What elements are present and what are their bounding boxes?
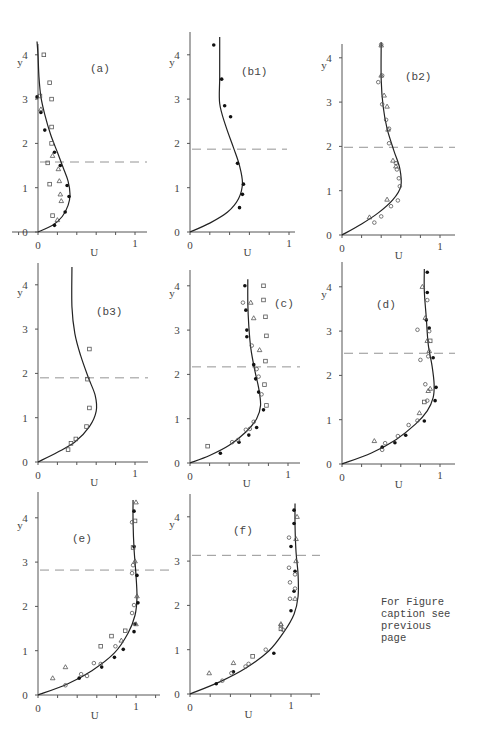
x-tick-label: 0 bbox=[35, 239, 41, 251]
filled-circle-marker bbox=[236, 162, 240, 166]
x-axis-label: U bbox=[91, 709, 99, 721]
filled-circle-marker bbox=[292, 522, 296, 526]
open-triangle-marker bbox=[134, 500, 139, 504]
open-circle-marker bbox=[264, 648, 268, 652]
filled-circle-marker bbox=[135, 574, 139, 578]
caption-line-3: previous bbox=[381, 620, 471, 632]
x-tick-label: 0 bbox=[187, 701, 193, 713]
open-circle-marker bbox=[407, 423, 411, 427]
y-axis-label: y bbox=[169, 518, 175, 530]
open-circle-marker bbox=[426, 355, 430, 359]
panel-c: 0123401Uy(c) bbox=[169, 270, 300, 489]
filled-circle-marker bbox=[433, 399, 437, 403]
filled-circle-marker bbox=[132, 509, 136, 513]
x-tick-label: 0 bbox=[35, 702, 41, 714]
model-curve bbox=[190, 37, 242, 232]
y-tick-label: 2 bbox=[174, 368, 180, 380]
open-triangle-marker bbox=[231, 661, 236, 665]
x-tick-label: 1 bbox=[132, 237, 138, 249]
open-circle-marker bbox=[288, 597, 292, 601]
x-tick-label: 0 bbox=[339, 242, 345, 254]
open-triangle-marker bbox=[257, 348, 262, 352]
open-square-marker bbox=[251, 655, 255, 659]
open-circle-marker bbox=[419, 358, 423, 362]
open-circle-marker bbox=[373, 221, 377, 225]
filled-circle-marker bbox=[431, 356, 435, 360]
open-circle-marker bbox=[424, 382, 428, 386]
y-tick-label: 3 bbox=[326, 325, 332, 337]
x-tick-label: 0 bbox=[187, 470, 193, 482]
open-circle-marker bbox=[427, 329, 431, 333]
open-square-marker bbox=[48, 81, 52, 85]
open-triangle-marker bbox=[294, 537, 299, 541]
filled-circle-marker bbox=[289, 609, 293, 613]
y-tick-label: 3 bbox=[174, 93, 180, 105]
open-triangle-marker bbox=[391, 158, 396, 162]
open-square-marker bbox=[263, 383, 267, 387]
panel-label: (c) bbox=[274, 298, 294, 310]
caption-line-1: For Figure bbox=[381, 596, 471, 608]
filled-circle-marker bbox=[247, 433, 251, 437]
filled-circle-marker bbox=[53, 224, 57, 228]
open-triangle-marker bbox=[293, 596, 298, 600]
open-triangle-marker bbox=[50, 676, 55, 680]
filled-circle-marker bbox=[238, 206, 242, 210]
open-triangle-marker bbox=[59, 199, 64, 203]
x-tick-label: 1 bbox=[285, 468, 291, 480]
panel-b3: 0123401Uy(b3) bbox=[17, 263, 148, 488]
open-circle-marker bbox=[244, 428, 248, 432]
open-circle-marker bbox=[287, 566, 291, 570]
x-axis-label: U bbox=[243, 477, 251, 489]
filled-circle-marker bbox=[67, 195, 71, 199]
y-tick-label: 4 bbox=[22, 49, 28, 61]
y-tick-label: 0 bbox=[22, 226, 28, 238]
filled-circle-marker bbox=[63, 210, 67, 214]
filled-circle-marker bbox=[244, 308, 248, 312]
y-tick-label: 1 bbox=[22, 645, 28, 657]
open-triangle-marker bbox=[382, 93, 387, 97]
y-tick-label: 0 bbox=[22, 456, 28, 468]
caption-line-4: page bbox=[381, 632, 471, 644]
y-axis-label: y bbox=[17, 56, 23, 68]
filled-circle-marker bbox=[53, 150, 57, 154]
panel-label: (d) bbox=[376, 299, 396, 311]
open-square-marker bbox=[48, 182, 52, 186]
open-square-marker bbox=[262, 284, 266, 288]
y-axis-label: y bbox=[321, 288, 327, 300]
filled-circle-marker bbox=[242, 182, 246, 186]
filled-circle-marker bbox=[65, 184, 69, 188]
filled-circle-marker bbox=[434, 386, 438, 390]
y-tick-label: 2 bbox=[22, 137, 28, 149]
open-circle-marker bbox=[131, 563, 135, 567]
filled-circle-marker bbox=[425, 270, 429, 274]
open-square-marker bbox=[50, 97, 54, 101]
y-tick-label: 1 bbox=[174, 413, 180, 425]
open-circle-marker bbox=[288, 581, 292, 585]
open-circle-marker bbox=[255, 367, 259, 371]
y-axis-label: y bbox=[321, 59, 327, 71]
open-circle-marker bbox=[92, 661, 96, 665]
open-square-marker bbox=[51, 214, 55, 218]
open-circle-marker bbox=[85, 674, 89, 678]
x-tick-label: 1 bbox=[286, 237, 292, 249]
open-square-marker bbox=[123, 629, 127, 633]
open-circle-marker bbox=[241, 301, 245, 305]
open-triangle-marker bbox=[294, 559, 299, 563]
panel-b2: 0123401Uy(b2) bbox=[321, 42, 455, 261]
open-triangle-marker bbox=[119, 638, 124, 642]
x-axis-label: U bbox=[245, 708, 253, 720]
x-tick-label: 1 bbox=[132, 467, 138, 479]
panel-f: 0123401Uy(f) bbox=[169, 494, 320, 720]
open-circle-marker bbox=[79, 672, 83, 676]
open-triangle-marker bbox=[57, 179, 62, 183]
open-triangle-marker bbox=[248, 300, 253, 304]
open-triangle-marker bbox=[417, 411, 422, 415]
open-circle-marker bbox=[293, 573, 297, 577]
filled-circle-marker bbox=[59, 164, 63, 168]
filled-circle-marker bbox=[43, 128, 47, 132]
open-triangle-marker bbox=[385, 197, 390, 201]
filled-circle-marker bbox=[243, 284, 247, 288]
y-tick-label: 0 bbox=[22, 689, 28, 701]
panel-label: (a) bbox=[90, 63, 110, 75]
open-triangle-marker bbox=[63, 665, 68, 669]
